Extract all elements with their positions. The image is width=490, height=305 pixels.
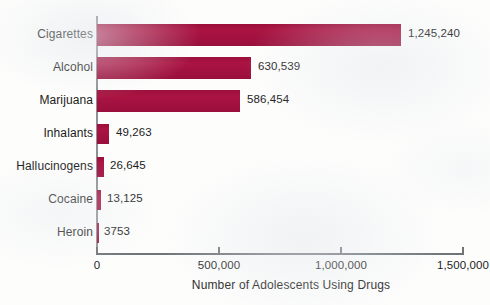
x-tick-label-2: 1,000,000 [315,259,367,271]
bar-cocaine [97,190,101,210]
bar-heroin [97,223,99,243]
category-label: Cocaine [48,192,93,206]
x-tick-label-3: 1,500,000 [437,259,489,271]
value-label: 586,454 [247,93,289,105]
bar-row: Cocaine 13,125 [0,189,490,211]
bar-marijuana [97,90,240,112]
bar-row: Alcohol 630,539 [0,57,490,79]
category-label: Hallucinogens [16,159,93,173]
bar-row: Cigarettes 1,245,240 [0,24,490,46]
x-axis-title-text: Number of Adolescents Using Drugs [192,278,390,292]
bar-alcohol [97,57,251,79]
value-label: 1,245,240 [408,27,460,39]
x-tick-label-0: 0 [94,259,101,271]
x-axis-line [96,253,464,255]
x-tick-mark-3 [462,247,464,254]
x-axis-title: Number of Adolescents Using Drugs [0,278,490,292]
value-label: 630,539 [258,60,300,72]
bar-inhalants [97,124,109,144]
value-label: 3753 [104,225,130,237]
category-label: Heroin [57,225,93,239]
bar-hallucinogens [97,157,104,177]
category-label: Alcohol [53,60,93,74]
x-tick-mark-1 [218,247,220,254]
category-label: Inhalants [43,126,93,140]
bar-chart: 0 500,000 1,000,000 1,500,000 Cigarettes… [0,0,490,305]
bar-cigarettes [97,24,401,46]
bar-row: Heroin 3753 [0,222,490,244]
x-tick-label-1: 500,000 [198,259,240,271]
value-label: 13,125 [107,192,143,204]
category-label: Marijuana [39,93,93,107]
bar-row: Inhalants 49,263 [0,123,490,145]
bar-row: Marijuana 586,454 [0,90,490,112]
x-tick-mark-2 [340,247,342,254]
x-tick-mark-0 [96,247,98,254]
bar-row: Hallucinogens 26,645 [0,156,490,178]
category-label: Cigarettes [37,27,93,41]
value-label: 49,263 [116,126,152,138]
value-label: 26,645 [110,159,146,171]
